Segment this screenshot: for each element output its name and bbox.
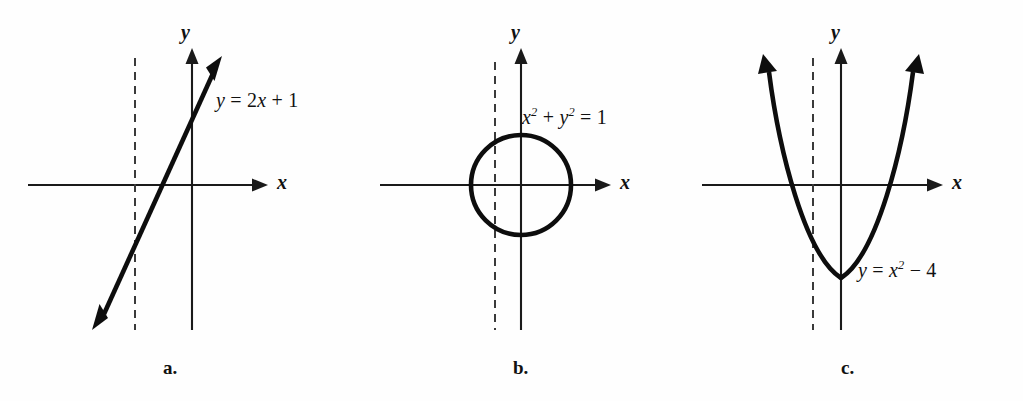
equation-c-var: x	[889, 259, 898, 281]
y-axis-arrowhead	[515, 48, 528, 64]
equation-a-var: x	[257, 89, 266, 111]
equation-label-a: y = 2x + 1	[216, 90, 298, 110]
equation-b-rhs: = 1	[575, 106, 607, 128]
parabola-arrowhead-left	[758, 54, 777, 74]
equation-a-rhs: + 1	[266, 89, 298, 111]
y-axis-label: y	[831, 22, 840, 42]
x-axis-arrowhead	[927, 179, 943, 192]
line-curve	[104, 69, 215, 314]
equation-a-lhs: y	[216, 89, 225, 111]
y-axis-arrowhead	[186, 48, 199, 64]
x-axis-label: x	[277, 172, 287, 192]
parabola-arrowhead-right	[905, 54, 924, 74]
panel-caption-a: a.	[163, 358, 177, 377]
x-axis-label: x	[952, 172, 962, 192]
panel-a-graph	[0, 0, 341, 401]
equation-label-c: y = x2 − 4	[858, 260, 937, 280]
equation-c-eq: =	[867, 259, 889, 281]
line-arrowhead-upper	[206, 56, 222, 81]
x-axis-label: x	[620, 172, 630, 192]
x-axis-arrowhead	[595, 179, 611, 192]
panel-caption-b: b.	[513, 358, 528, 377]
y-axis-label: y	[511, 22, 520, 42]
panel-b-graph	[341, 0, 682, 401]
equation-label-b: x2 + y2 = 1	[522, 107, 607, 127]
equation-a-eq: = 2	[225, 89, 257, 111]
equation-b-var1: x	[522, 106, 531, 128]
panel-caption-c: c.	[841, 358, 854, 377]
equation-b-plus: +	[537, 106, 559, 128]
equation-c-lhs: y	[858, 259, 867, 281]
panel-c: y x y = x2 − 4 c.	[682, 0, 1023, 401]
y-axis-label: y	[181, 22, 190, 42]
equation-c-rhs: − 4	[904, 259, 936, 281]
panel-c-graph	[682, 0, 1023, 401]
panel-a: y x y = 2x + 1 a.	[0, 0, 341, 401]
vertical-line-test-figure: y x y = 2x + 1 a. y x x2 + y2 = 1 b.	[0, 0, 1023, 401]
y-axis-arrowhead	[835, 48, 848, 64]
x-axis-arrowhead	[252, 179, 268, 192]
panel-b: y x x2 + y2 = 1 b.	[341, 0, 682, 401]
